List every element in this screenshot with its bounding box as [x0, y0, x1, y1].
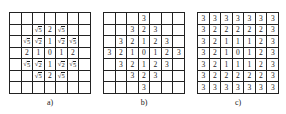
radicand: 2: [61, 38, 65, 46]
grid-cell: 2: [127, 59, 139, 71]
grid-cell: 2: [116, 48, 128, 60]
grid-cell: [79, 25, 91, 37]
grid-cell: [68, 82, 80, 94]
grid-cell: 2: [139, 25, 151, 37]
grid-cell: [10, 25, 22, 37]
grid-cell: √5: [33, 71, 45, 83]
grid-cell: 3: [210, 13, 222, 25]
grid-cell: 3: [221, 82, 233, 94]
grid-cell: 1: [233, 36, 245, 48]
radicand: 2: [38, 61, 42, 69]
grid-cell: [79, 82, 91, 94]
grid-cell: 2: [210, 36, 222, 48]
grid-cell: 1: [33, 48, 45, 60]
grid-cell: 3: [150, 25, 162, 37]
grid-cell: [104, 71, 116, 83]
grid-cell: [162, 71, 174, 83]
grid-cell: 3: [267, 59, 279, 71]
grid-cell: √2: [56, 36, 68, 48]
grid-cell: 3: [116, 36, 128, 48]
grid-cell: 1: [221, 36, 233, 48]
grid-cell: 2: [127, 36, 139, 48]
grid-cell: [173, 36, 185, 48]
grid-cell: [10, 13, 22, 25]
grid-cell: √5: [33, 25, 45, 37]
grid-cell: 3: [256, 82, 268, 94]
grid-cell: [45, 13, 57, 25]
radicand: 2: [61, 61, 65, 69]
grid-cell: [162, 25, 174, 37]
grid-cell: [79, 59, 91, 71]
grid-panel-a: √52√5√5√21√2√521012√5√21√2√5√52√5: [9, 12, 91, 94]
grid-cell: [173, 82, 185, 94]
grid-cell: 0: [45, 48, 57, 60]
grid-cell: 3: [244, 13, 256, 25]
grid-cell: 3: [116, 59, 128, 71]
grid-cell: 3: [233, 13, 245, 25]
grid-cell: [104, 82, 116, 94]
radicand: 5: [38, 72, 42, 80]
grid-cell: 3: [198, 48, 210, 60]
grid-cell: 2: [139, 71, 151, 83]
grid-cell: 2: [22, 48, 34, 60]
grid-cell: 3: [256, 13, 268, 25]
grid-cell: [22, 82, 34, 94]
grid-cell: 1: [56, 48, 68, 60]
grid-cell: [116, 71, 128, 83]
grid-cell: 1: [221, 48, 233, 60]
radicand: 5: [61, 72, 65, 80]
panel-caption-a: a): [9, 98, 91, 107]
distance-grid-c: 3333333322222332111233210123321112332222…: [197, 12, 279, 94]
grid-cell: 3: [267, 13, 279, 25]
grid-cell: [10, 59, 22, 71]
grid-cell: 3: [104, 48, 116, 60]
grid-panel-c: 3333333322222332111233210123321112332222…: [197, 12, 279, 94]
grid-cell: [10, 36, 22, 48]
grid-cell: 2: [210, 71, 222, 83]
grid-cell: 0: [139, 48, 151, 60]
grid-cell: √2: [56, 59, 68, 71]
grid-cell: 3: [267, 48, 279, 60]
grid-cell: 2: [256, 71, 268, 83]
grid-cell: 3: [233, 82, 245, 94]
grid-cell: 2: [210, 25, 222, 37]
grid-cell: 2: [150, 59, 162, 71]
grid-cell: [10, 48, 22, 60]
grid-cell: 3: [162, 59, 174, 71]
grid-cell: [68, 13, 80, 25]
grid-cell: 2: [256, 36, 268, 48]
grid-cell: 3: [127, 25, 139, 37]
grid-cell: [79, 71, 91, 83]
panel-caption-c: c): [197, 98, 279, 107]
grid-cell: 3: [139, 13, 151, 25]
grid-cell: [173, 71, 185, 83]
grid-cell: [79, 48, 91, 60]
grid-cell: 3: [267, 82, 279, 94]
grid-cell: 3: [173, 48, 185, 60]
radicand: 5: [73, 38, 77, 46]
grid-cell: [150, 13, 162, 25]
grid-cell: 1: [221, 59, 233, 71]
grid-cell: √5: [22, 59, 34, 71]
grid-cell: 1: [127, 48, 139, 60]
grid-cell: 2: [162, 48, 174, 60]
grid-cell: 2: [210, 48, 222, 60]
grid-cell: [68, 25, 80, 37]
grid-cell: [104, 13, 116, 25]
grid-cell: 2: [244, 25, 256, 37]
grid-cell: [116, 25, 128, 37]
grid-cell: 3: [162, 36, 174, 48]
grid-cell: 1: [139, 36, 151, 48]
grid-cell: 1: [244, 36, 256, 48]
grid-cell: [22, 71, 34, 83]
grid-cell: 3: [198, 82, 210, 94]
distance-grid-a: √52√5√5√21√2√521012√5√21√2√5√52√5: [9, 12, 91, 94]
grid-cell: 3: [198, 25, 210, 37]
grid-cell: 0: [233, 48, 245, 60]
grid-cell: [116, 82, 128, 94]
radicand: 5: [61, 26, 65, 34]
grid-cell: √5: [56, 71, 68, 83]
grid-cell: 3: [267, 71, 279, 83]
grid-cell: √2: [33, 59, 45, 71]
grid-cell: [162, 13, 174, 25]
